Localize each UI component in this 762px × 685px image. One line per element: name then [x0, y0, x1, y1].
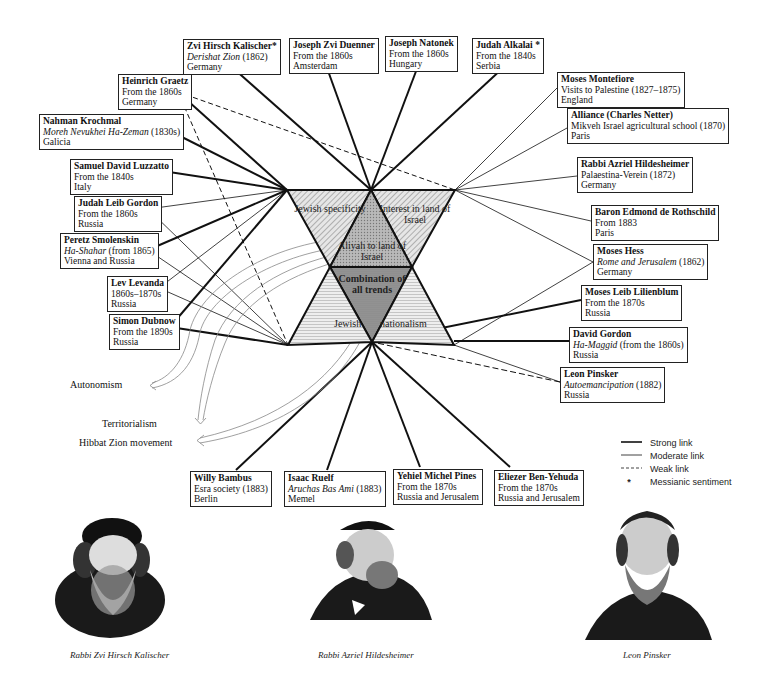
box-hess: Moses Hess Rome and Jerusalem (1862) Ger… — [593, 244, 708, 280]
box-dubnow: Simon Dubnow From the 1890s Russia — [109, 314, 180, 350]
box-levanda: Lev Levanda 1860s–1870s Russia — [107, 276, 168, 312]
label-interest-land: Interest in land of Israel — [378, 203, 452, 225]
box-montefiore: Moses Montefiore Visits to Palestine (18… — [557, 72, 685, 108]
links-top-center — [233, 66, 505, 190]
label-combination: Combination of all trends — [336, 273, 408, 295]
legend-moderate: Moderate link — [618, 449, 732, 462]
box-smolenskin: Peretz Smolenskin Ha-Shahar (from 1865) … — [60, 233, 159, 269]
box-pines: Yehiel Michel Pines From the 1870s Russi… — [393, 469, 483, 505]
box-hildesheimer: Rabbi Azriel Hildesheimer Palaestina-Ver… — [577, 157, 693, 193]
box-gordon-d: David Gordon Ha-Maggid (from the 1860s) … — [569, 327, 688, 363]
legend-weak: Weak link — [618, 462, 732, 475]
label-aliyah: Aliyah to land of Israel — [335, 240, 409, 262]
portrait-kalischer — [55, 518, 165, 638]
box-benyehuda: Eliezer Ben-Yehuda From the 1870s Russia… — [494, 470, 584, 506]
box-krochmal: Nahman Krochmal Moreh Nevukhei Ha-Zeman … — [39, 114, 184, 150]
box-alliance: Alliance (Charles Netter) Mikveh Israel … — [567, 108, 729, 144]
box-gordon-jl: Judah Leib Gordon From the 1860s Russia — [74, 196, 162, 232]
links-bottom-center — [236, 342, 510, 470]
portrait-hildesheimer — [310, 521, 432, 620]
legend-messianic: *Messianic sentiment — [618, 475, 732, 488]
label-jewish-nationalism-left: Jewish — [334, 318, 361, 329]
legend-strong: Strong link — [618, 436, 732, 449]
outcome-autonomism: Autonomism — [70, 379, 122, 390]
caption-hildesheimer: Rabbi Azriel Hildesheimer — [318, 650, 414, 660]
box-lilienblum: Moses Leib Lilienblum From the 1870s Rus… — [581, 285, 682, 321]
box-rothschild: Baron Edmond de Rothschild From 1883 Par… — [591, 205, 719, 241]
box-bambus: Willy Bambus Esra society (1883) Berlin — [190, 471, 272, 507]
asterisk-icon: * — [618, 477, 640, 487]
legend: Strong link Moderate link Weak link *Mes… — [618, 436, 732, 488]
box-pinsker: Leon Pinsker Autoemancipation (1882) Rus… — [560, 367, 665, 403]
label-jewish-nationalism-right: nationalism — [380, 318, 427, 329]
box-natonek: Joseph Natonek From the 1860s Hungary — [385, 36, 458, 72]
caption-pinsker: Leon Pinsker — [623, 650, 671, 660]
box-kalischer: Zvi Hirsch Kalischer* Derishat Zion (186… — [183, 39, 281, 75]
caption-kalischer: Rabbi Zvi Hirsch Kalischer — [70, 650, 169, 660]
portrait-pinsker — [585, 511, 712, 640]
box-duenner: Joseph Zvi Duenner From the 1860s Amster… — [289, 38, 379, 74]
box-luzzatto: Samuel David Luzzatto From the 1840s Ita… — [70, 159, 173, 195]
box-alkalai: Judah Alkalai * From the 1840s Serbia — [472, 38, 544, 74]
outcome-territorialism: Territorialism — [102, 418, 157, 429]
label-jewish-specificity: Jewish specificity — [293, 203, 367, 214]
box-graetz: Heinrich Graetz From the 1860s Germany — [118, 74, 192, 110]
outcome-hibbat-zion: Hibbat Zion movement — [79, 437, 172, 448]
box-ruelf: Isaac Ruelf Aruchas Bas Ami (1883) Memel — [284, 471, 386, 507]
